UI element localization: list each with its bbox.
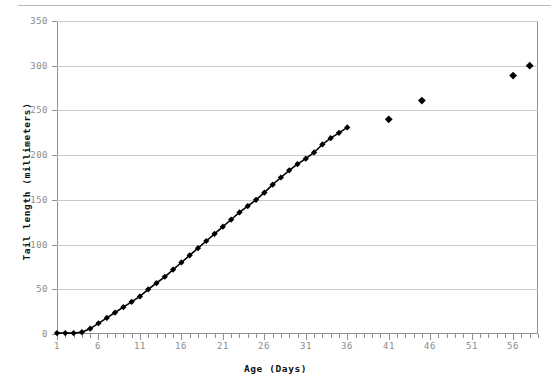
x-tick-mark — [438, 334, 439, 338]
gridline — [57, 200, 538, 201]
x-tick-mark — [107, 334, 108, 338]
x-tick-mark — [198, 334, 199, 338]
x-tick-mark — [414, 334, 415, 338]
x-tick-label: 31 — [296, 341, 316, 351]
x-tick-mark-major — [223, 334, 224, 340]
x-tick-label: 46 — [420, 341, 440, 351]
y-tick-mark — [52, 200, 57, 201]
x-tick-mark — [215, 334, 216, 338]
gridline — [57, 66, 538, 67]
x-tick-mark — [397, 334, 398, 338]
x-tick-mark — [298, 334, 299, 338]
x-tick-label: 41 — [379, 341, 399, 351]
x-tick-mark — [281, 334, 282, 338]
gridline — [57, 110, 538, 111]
y-tick-mark — [52, 21, 57, 22]
y-tick-label: 350 — [18, 17, 48, 26]
x-tick-mark-major — [181, 334, 182, 340]
y-axis-title: Tail length (millimeters) — [21, 67, 32, 297]
gridline — [57, 289, 538, 290]
x-tick-mark — [157, 334, 158, 338]
x-tick-mark — [173, 334, 174, 338]
x-tick-mark-major — [347, 334, 348, 340]
x-tick-mark — [65, 334, 66, 338]
x-tick-mark — [339, 334, 340, 338]
x-tick-mark — [364, 334, 365, 338]
x-tick-mark — [273, 334, 274, 338]
x-tick-mark — [422, 334, 423, 338]
x-tick-label: 1 — [47, 341, 67, 351]
x-tick-mark — [165, 334, 166, 338]
x-tick-mark — [148, 334, 149, 338]
x-tick-mark-major — [389, 334, 390, 340]
x-tick-mark — [405, 334, 406, 338]
x-tick-mark — [190, 334, 191, 338]
x-tick-label: 56 — [503, 341, 523, 351]
x-tick-mark — [206, 334, 207, 338]
x-tick-mark — [248, 334, 249, 338]
x-tick-mark — [497, 334, 498, 338]
gridline — [57, 21, 538, 22]
x-tick-label: 6 — [88, 341, 108, 351]
x-tick-mark-major — [472, 334, 473, 340]
x-tick-label: 21 — [213, 341, 233, 351]
x-axis-title: Age (Days) — [0, 363, 551, 374]
x-tick-mark-major — [430, 334, 431, 340]
x-tick-mark — [115, 334, 116, 338]
x-tick-mark — [289, 334, 290, 338]
x-tick-mark — [90, 334, 91, 338]
x-tick-label: 36 — [337, 341, 357, 351]
y-tick-mark — [52, 245, 57, 246]
x-tick-mark — [380, 334, 381, 338]
x-tick-mark-major — [264, 334, 265, 340]
x-tick-mark — [505, 334, 506, 338]
x-tick-mark — [480, 334, 481, 338]
x-tick-label: 26 — [254, 341, 274, 351]
x-tick-mark — [314, 334, 315, 338]
x-tick-mark — [239, 334, 240, 338]
x-tick-mark — [530, 334, 531, 338]
x-tick-mark — [488, 334, 489, 338]
x-tick-mark — [538, 334, 539, 338]
x-tick-mark — [447, 334, 448, 338]
x-tick-mark — [356, 334, 357, 338]
x-tick-mark — [455, 334, 456, 338]
plot-frame — [57, 21, 538, 334]
x-tick-label: 11 — [130, 341, 150, 351]
x-tick-mark — [74, 334, 75, 338]
x-tick-mark — [463, 334, 464, 338]
x-tick-mark — [256, 334, 257, 338]
x-tick-label: 16 — [171, 341, 191, 351]
y-tick-mark — [52, 110, 57, 111]
x-tick-mark — [123, 334, 124, 338]
y-tick-mark — [52, 66, 57, 67]
x-tick-mark — [331, 334, 332, 338]
x-tick-mark — [521, 334, 522, 338]
x-tick-mark — [132, 334, 133, 338]
x-tick-label: 51 — [462, 341, 482, 351]
x-tick-mark — [82, 334, 83, 338]
x-tick-mark-major — [306, 334, 307, 340]
x-tick-mark — [231, 334, 232, 338]
gridline — [57, 245, 538, 246]
x-tick-mark — [372, 334, 373, 338]
x-tick-mark-major — [513, 334, 514, 340]
x-tick-mark-major — [140, 334, 141, 340]
gridline — [57, 155, 538, 156]
x-tick-mark-major — [98, 334, 99, 340]
chart-area: 050100150200250300350 161116212631364146… — [0, 0, 551, 384]
x-tick-mark-major — [57, 334, 58, 340]
x-tick-mark — [322, 334, 323, 338]
y-tick-mark — [52, 289, 57, 290]
y-tick-mark — [52, 155, 57, 156]
y-tick-label: 0 — [18, 330, 48, 339]
